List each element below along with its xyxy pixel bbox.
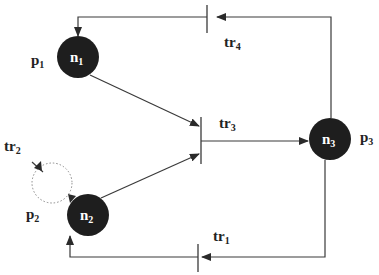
node-n2[interactable]: n2 [67,194,109,236]
node-n3[interactable]: n3 [309,118,351,160]
edge-n1-tr3 [90,75,199,126]
place-label-p2: p2 [26,206,39,224]
self-loop-tr2 [32,161,76,203]
transition-label-tr3: tr3 [219,115,236,133]
edge-n3-tr4-n1 [78,17,331,118]
edge-n2-tr3 [101,154,199,198]
transition-label-tr4: tr4 [224,34,241,52]
transition-label-tr1: tr1 [213,228,230,246]
edge-n3-tr1-n2 [70,160,325,257]
place-label-p3: p3 [360,129,373,147]
place-label-p1: p1 [31,52,44,70]
transition-label-tr2: tr2 [4,138,21,156]
node-n1[interactable]: n1 [57,36,99,78]
diagram-canvas: n1 p1 n2 p2 n3 p3 tr4 tr3 tr2 tr1 [0,0,379,275]
